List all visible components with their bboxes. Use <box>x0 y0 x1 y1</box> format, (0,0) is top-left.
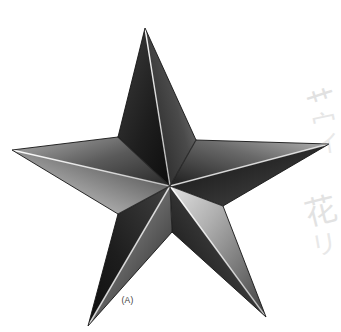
figure-caption: (A) <box>0 295 341 305</box>
star-figure <box>0 0 341 332</box>
figure-page: 艹 宀 イ 花 リ (A) <box>0 0 341 332</box>
figure-caption-text: (A) <box>122 295 134 305</box>
star-body <box>12 28 329 326</box>
